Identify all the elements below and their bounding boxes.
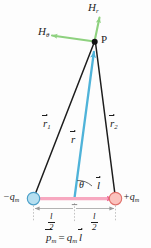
negative-charge-label: −qm xyxy=(3,192,19,203)
negative-charge-circle xyxy=(27,192,39,204)
r-label: r xyxy=(71,134,75,145)
figure-canvas: Hr Hθ P r1 r r2 θ l −qm +qm l 2 l xyxy=(0,0,151,248)
h-theta-label: Hθ xyxy=(38,26,49,39)
point-p-marker xyxy=(92,39,98,45)
theta-label: θ xyxy=(79,180,84,190)
field-component-arrows xyxy=(52,18,100,42)
r1-label: r1 xyxy=(43,118,51,131)
point-p-label: P xyxy=(101,34,107,45)
h-radial-arrow xyxy=(95,18,100,42)
half-length-right-label: l 2 xyxy=(91,212,98,232)
h-radial-label: Hr xyxy=(88,2,99,15)
h-theta-arrow xyxy=(52,36,95,42)
dipole-moment-formula: pm=qml xyxy=(46,232,82,245)
positive-charge-circle xyxy=(109,192,121,204)
r-vector-arrow xyxy=(75,52,94,198)
dimension-lines xyxy=(34,203,116,222)
r2-label: r2 xyxy=(110,118,118,131)
l-vector-label: l xyxy=(97,180,100,191)
diagram-artwork xyxy=(0,0,151,248)
positive-charge-label: +qm xyxy=(123,192,139,203)
